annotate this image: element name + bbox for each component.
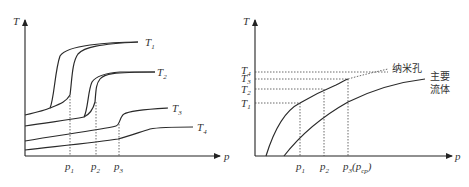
curve-t1-desorption (50, 42, 138, 108)
left-tick-p1: p1 (64, 160, 74, 175)
label-t4: T4 (197, 121, 207, 136)
right-panel: T p T4 T3 T2 T1 p1 p2 p3(pcp) 纳米孔 主要 流体 (241, 15, 461, 175)
right-tick-p1: p1 (295, 160, 305, 175)
right-x-axis-label: p (454, 150, 461, 162)
left-panel: T p T1 T2 T3 T4 p1 p2 p3 (13, 15, 230, 175)
label-t3: T3 (172, 102, 182, 117)
label-bulk-fluid-line2: 流体 (430, 83, 450, 95)
label-t1: T1 (145, 36, 155, 51)
right-y-axis-label: T (243, 15, 250, 27)
right-tick-p2: p2 (319, 160, 330, 175)
phase-diagram-figure: T p T1 T2 T3 T4 p1 p2 p3 T p (0, 0, 469, 187)
left-tick-p2: p2 (90, 160, 101, 175)
left-tick-p3: p3 (113, 160, 124, 175)
curve-t3 (25, 108, 168, 141)
curve-nanopore (266, 79, 348, 156)
curve-t1-adsorption (25, 42, 138, 115)
right-tick-t1: T1 (241, 97, 251, 111)
label-nanopore: 纳米孔 (392, 62, 422, 74)
left-y-axis-label: T (13, 15, 20, 27)
label-bulk-fluid-line1: 主要 (430, 71, 450, 82)
curve-nanopore-extrapolation (348, 69, 388, 79)
right-tick-p3-pcp: p3(pcp) (342, 160, 372, 175)
label-t2: T2 (157, 66, 167, 81)
curve-t2-adsorption (25, 72, 155, 126)
left-x-axis-label: p (223, 150, 230, 162)
curve-t4 (25, 127, 193, 150)
curve-bulk-fluid (284, 79, 425, 156)
